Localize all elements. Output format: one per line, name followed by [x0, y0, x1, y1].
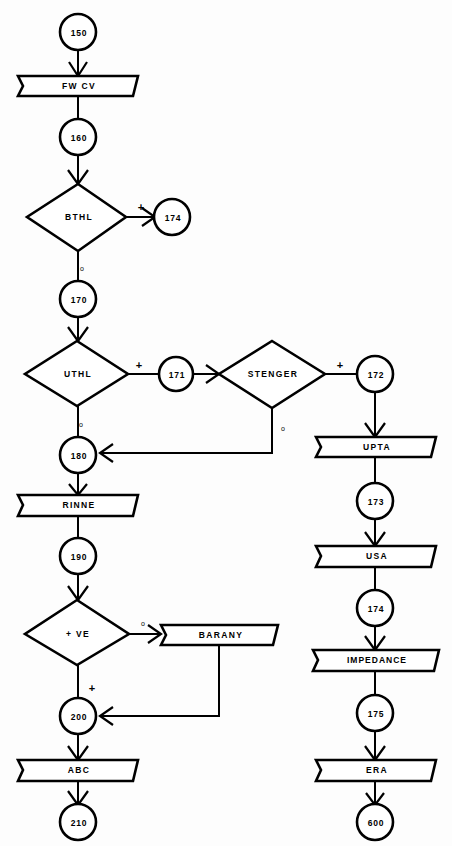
node-label-190: 190	[71, 552, 88, 562]
branch-label-bthl-positive: +	[138, 201, 144, 213]
node-connector-180[interactable]: 180	[60, 437, 96, 473]
node-label-174-usa: 174	[368, 604, 385, 614]
node-label-173: 173	[368, 497, 385, 507]
branch-label-ve-negative: o	[141, 620, 145, 627]
node-connector-200[interactable]: 200	[60, 698, 96, 734]
branch-label-bthl-negative: o	[80, 265, 84, 272]
node-connector-175[interactable]: 175	[357, 695, 393, 731]
node-label-upta: UPTA	[363, 442, 391, 452]
edge-190-ve	[68, 574, 88, 600]
node-label-rinne: RINNE	[62, 500, 95, 510]
edge-stenger-180	[100, 408, 272, 462]
node-label-bthl: BTHL	[65, 212, 93, 222]
edge-era-600	[366, 781, 384, 805]
edge-200-abc	[68, 734, 88, 760]
branch-label-uthl-negative: o	[79, 421, 83, 428]
node-label-210: 210	[71, 818, 88, 828]
node-process-barany[interactable]: BARANY	[161, 625, 278, 645]
node-decision-uthl[interactable]: UTHL	[25, 341, 128, 406]
node-connector-174-bthl[interactable]: 174	[154, 199, 190, 235]
node-connector-173[interactable]: 173	[357, 483, 393, 519]
node-label-175: 175	[368, 709, 385, 719]
node-label-180: 180	[71, 451, 88, 461]
node-process-era[interactable]: ERA	[316, 760, 436, 781]
node-decision-plus-ve[interactable]: + VE	[25, 600, 129, 665]
edge-175-era	[365, 731, 385, 760]
node-process-impedance[interactable]: IMPEDANCE	[313, 650, 439, 671]
node-connector-172[interactable]: 172	[357, 356, 393, 392]
node-decision-stenger[interactable]: STENGER	[219, 341, 325, 408]
node-connector-170[interactable]: 170	[60, 281, 96, 317]
node-label-stenger: STENGER	[248, 369, 299, 379]
flowchart-svg: 150 FW CV 160 BTHL 174 170	[0, 0, 452, 846]
edge-ve-barany	[129, 625, 161, 643]
flowchart-canvas: 150 FW CV 160 BTHL 174 170	[0, 0, 452, 846]
edge-171-stenger	[193, 365, 219, 383]
node-label-abc: ABC	[68, 765, 90, 775]
edge-170-uthl	[68, 317, 88, 341]
edge-150-fwcv	[69, 50, 87, 76]
branch-marker-layer: + o + o + o o +	[79, 201, 343, 694]
node-label-impedance: IMPEDANCE	[347, 655, 407, 665]
branch-label-uthl-positive: +	[136, 359, 142, 371]
node-process-rinne[interactable]: RINNE	[18, 495, 138, 516]
branch-label-stenger-negative: o	[281, 425, 285, 432]
node-connector-174-usa[interactable]: 174	[357, 590, 393, 626]
node-process-upta[interactable]: UPTA	[316, 437, 436, 457]
edge-173-usa	[365, 519, 385, 546]
node-label-160: 160	[71, 133, 88, 143]
node-label-170: 170	[71, 295, 88, 305]
node-connector-160[interactable]: 160	[60, 119, 96, 155]
edge-174-impedance	[365, 626, 385, 650]
node-label-200: 200	[71, 712, 88, 722]
node-process-fw-cv[interactable]: FW CV	[18, 76, 138, 96]
edge-180-rinne	[69, 473, 87, 495]
node-label-fw-cv: FW CV	[62, 81, 96, 91]
node-process-abc[interactable]: ABC	[18, 760, 138, 781]
node-label-barany: BARANY	[199, 630, 243, 640]
edge-layer	[68, 50, 385, 805]
node-label-150: 150	[71, 28, 88, 38]
edge-barany-200	[100, 645, 219, 725]
node-label-600: 600	[368, 818, 385, 828]
edge-160-bthl	[68, 155, 88, 184]
edge-abc-210	[68, 781, 88, 805]
node-process-usa[interactable]: USA	[316, 546, 436, 567]
node-label-171: 171	[169, 370, 186, 380]
node-label-uthl: UTHL	[64, 369, 92, 379]
node-connector-210[interactable]: 210	[60, 804, 96, 840]
node-label-usa: USA	[366, 551, 388, 561]
node-connector-150[interactable]: 150	[60, 14, 96, 50]
node-label-174-bthl: 174	[165, 213, 182, 223]
branch-label-stenger-positive: +	[337, 359, 343, 371]
branch-label-ve-positive: +	[89, 682, 95, 694]
edge-172-upta	[365, 393, 385, 437]
node-label-172: 172	[368, 370, 385, 380]
node-label-plus-ve: + VE	[66, 629, 90, 639]
node-label-era: ERA	[366, 765, 388, 775]
node-decision-bthl[interactable]: BTHL	[27, 184, 126, 251]
node-connector-171[interactable]: 171	[159, 357, 193, 391]
node-connector-600[interactable]: 600	[357, 804, 393, 840]
node-connector-190[interactable]: 190	[60, 538, 96, 574]
